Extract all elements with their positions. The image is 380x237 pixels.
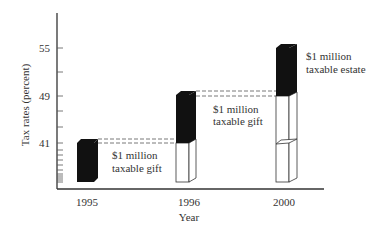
x-tick-2000: 2000 [273, 196, 296, 208]
y-tick-49: 49 [39, 90, 51, 102]
annotation-gift-1996: $1 million taxable gift [213, 103, 263, 127]
svg-text:$1 million: $1 million [112, 149, 158, 161]
y-tick-41: 41 [39, 137, 50, 149]
svg-text:taxable gift: taxable gift [213, 115, 263, 127]
tax-rate-chart: 55 49 41 Tax rates (percent) 1995 1996 2… [0, 0, 380, 237]
x-tick-1996: 1996 [178, 196, 201, 208]
annotation-estate-2000: $1 million taxable estate [306, 50, 366, 75]
x-axis-label: Year [179, 211, 200, 223]
svg-text:taxable estate: taxable estate [306, 63, 366, 75]
svg-text:$1 million: $1 million [306, 50, 352, 62]
dashed-connector-1996-2000 [196, 91, 276, 96]
y-ticks [57, 48, 63, 182]
annotation-gift-1995: $1 million taxable gift [112, 149, 162, 174]
svg-text:$1 million: $1 million [213, 103, 259, 115]
dashed-connector-1995-1996 [98, 139, 176, 143]
x-tick-1995: 1995 [76, 196, 99, 208]
y-tick-55: 55 [39, 42, 51, 54]
bar-2000 [276, 44, 297, 182]
y-axis-label: Tax rates (percent) [19, 64, 32, 147]
bar-1995 [77, 139, 98, 182]
svg-text:taxable gift: taxable gift [112, 162, 162, 174]
bar-1996 [176, 91, 196, 182]
